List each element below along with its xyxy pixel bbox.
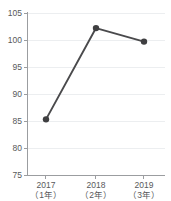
- y-tick-label-105: 105: [8, 8, 22, 18]
- series-line-1: [46, 28, 144, 119]
- y-tick-label-80: 80: [13, 143, 23, 153]
- x-tick-label-2018-grade: （2年）: [80, 190, 112, 200]
- line-chart: 105 100 95 90 85 80 75 2017 （1年） 2018 （2…: [0, 0, 171, 201]
- x-tick-label-2017-grade: （1年）: [30, 190, 62, 200]
- x-tick-label-2019-year: 2019: [135, 180, 154, 190]
- grid-lines: [27, 14, 165, 149]
- y-tick-label-75: 75: [13, 170, 23, 180]
- x-tick-label-2018-year: 2018: [87, 180, 106, 190]
- data-series: [43, 25, 147, 123]
- x-axis: [27, 176, 165, 179]
- y-axis: [24, 12, 28, 176]
- y-tick-label-95: 95: [13, 62, 23, 72]
- x-axis-tick-labels: 2017 （1年） 2018 （2年） 2019 （3年）: [30, 180, 160, 200]
- y-axis-tick-labels: 105 100 95 90 85 80 75: [8, 8, 22, 180]
- chart-canvas: 105 100 95 90 85 80 75 2017 （1年） 2018 （2…: [0, 0, 171, 201]
- y-tick-label-100: 100: [8, 35, 22, 45]
- x-tick-label-2017-year: 2017: [37, 180, 56, 190]
- data-point-2019: [141, 38, 147, 44]
- data-point-2018: [93, 25, 99, 31]
- x-tick-label-2019-grade: （3年）: [128, 190, 160, 200]
- y-tick-label-90: 90: [13, 89, 23, 99]
- data-point-2017: [43, 116, 49, 122]
- y-tick-label-85: 85: [13, 116, 23, 126]
